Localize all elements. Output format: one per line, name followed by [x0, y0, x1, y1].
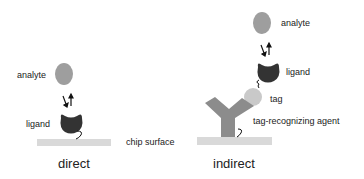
tag-label: tag — [270, 94, 283, 104]
ligand-linker-indirect — [257, 80, 259, 88]
analyte-label-direct: analyte — [17, 70, 46, 80]
tag-recognizing-agent-shape — [205, 97, 254, 137]
chip-surface-direct — [37, 139, 111, 146]
chip-surface-indirect — [197, 137, 272, 145]
ligand-indirect — [258, 63, 280, 82]
ligand-direct — [61, 114, 83, 133]
indirect-title: indirect — [213, 157, 255, 171]
equilibrium-arrows-direct — [63, 94, 73, 107]
ligand-linker-direct — [76, 131, 82, 139]
analyte-direct — [55, 63, 73, 85]
tag-recognizing-agent-label: tag-recognizing agent — [253, 116, 340, 126]
ligand-label-direct: ligand — [26, 119, 50, 129]
chip-surface-label: chip surface — [126, 137, 175, 147]
equilibrium-arrows-indirect — [261, 43, 271, 56]
analyte-indirect — [253, 12, 271, 34]
agent-linker — [237, 129, 242, 137]
analyte-label-indirect: analyte — [281, 18, 310, 28]
direct-title: direct — [58, 157, 90, 171]
ligand-label-indirect: ligand — [286, 67, 310, 77]
